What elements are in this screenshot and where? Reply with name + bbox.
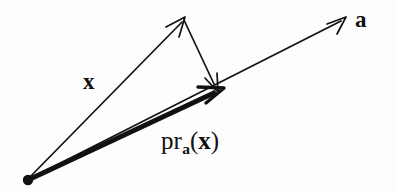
projection-label: pra(x) — [161, 128, 219, 156]
vector-x-arrowhead — [166, 17, 185, 37]
projection-subscript: a — [182, 140, 190, 157]
vector-a-label: a — [355, 8, 367, 31]
vector-residual — [184, 20, 218, 92]
vector-x-shaft — [27, 22, 182, 180]
projection-open-paren: ( — [190, 127, 198, 154]
projection-operator: pr — [161, 127, 182, 154]
vector-diagram-canvas — [0, 0, 397, 192]
vector-x-label: x — [83, 70, 95, 93]
projection-close-paren: ) — [211, 127, 219, 154]
vector-a-arrowhead — [327, 17, 346, 34]
projection-argument: x — [198, 127, 211, 154]
origin-dot — [23, 175, 33, 185]
vector-residual-shaft — [184, 20, 214, 84]
projection-figure: a x pra(x) — [0, 0, 397, 192]
